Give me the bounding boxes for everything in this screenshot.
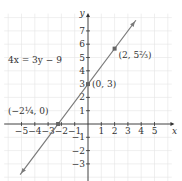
y-tick-label: 5 <box>79 53 85 63</box>
equation-label: 4x = 3y − 9 <box>8 55 62 65</box>
x-tick-label: 1 <box>98 126 104 136</box>
y-tick-label: −1 <box>72 132 85 142</box>
coordinate-plane: −5−4−3−2−112345−3−2−11234567xy4x = 3y − … <box>0 0 182 181</box>
x-tick-label: 3 <box>125 126 131 136</box>
graph: −5−4−3−2−112345−3−2−11234567xy4x = 3y − … <box>0 0 182 181</box>
point-label-x-intercept: (−2¼, 0) <box>8 106 48 116</box>
y-tick-label: −3 <box>72 159 86 169</box>
x-tick-label: −2 <box>55 126 68 136</box>
x-axis-label: x <box>172 126 177 136</box>
y-axis-label: y <box>78 8 85 18</box>
data-point <box>86 82 90 86</box>
data-point <box>56 122 60 126</box>
y-tick-label: 6 <box>79 39 85 49</box>
x-tick-label: 2 <box>112 126 118 136</box>
y-tick-label: 4 <box>79 66 85 76</box>
point-label-y-intercept: (0, 3) <box>92 79 116 89</box>
y-tick-label: −2 <box>72 146 85 156</box>
x-tick-label: −4 <box>28 126 42 136</box>
y-axis-arrow-icon <box>86 13 90 17</box>
y-tick-label: 1 <box>79 106 85 116</box>
x-tick-label: 5 <box>152 126 158 136</box>
point-label-third: (2, 5⅔) <box>119 50 152 60</box>
x-tick-label: 4 <box>138 126 144 136</box>
data-point <box>113 47 117 51</box>
x-tick-label: −5 <box>15 126 29 136</box>
y-tick-label: 3 <box>79 79 85 89</box>
y-tick-label: 7 <box>79 26 85 36</box>
